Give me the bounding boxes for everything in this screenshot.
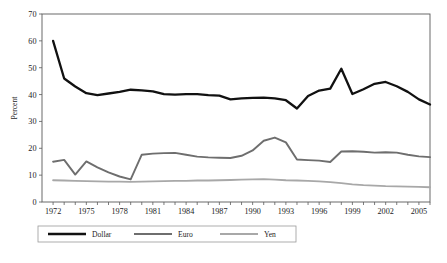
y-axis-ticks: 010203040506070: [28, 10, 42, 207]
y-tick-label: 30: [28, 117, 36, 126]
y-tick-label: 60: [28, 37, 36, 46]
y-tick-label: 50: [28, 64, 36, 73]
legend-label-yen: Yen: [264, 230, 276, 239]
x-tick-label: 1978: [111, 207, 127, 216]
y-tick-label: 0: [32, 198, 36, 207]
x-axis-ticks: 1972197519781981198419871990199319961999…: [45, 202, 430, 216]
x-tick-label: 1984: [178, 207, 194, 216]
line-chart: 010203040506070 197219751978198119841987…: [0, 0, 447, 263]
y-tick-label: 40: [28, 91, 36, 100]
legend-label-dollar: Dollar: [92, 230, 112, 239]
x-tick-label: 1993: [278, 207, 294, 216]
x-tick-label: 1999: [344, 207, 360, 216]
x-tick-label: 1972: [45, 207, 61, 216]
figure-container: 010203040506070 197219751978198119841987…: [0, 0, 447, 263]
y-axis-title-label: Percent: [10, 96, 19, 120]
x-tick-label: 1975: [78, 207, 94, 216]
y-tick-label: 20: [28, 144, 36, 153]
legend-label-euro: Euro: [178, 230, 193, 239]
y-tick-label: 70: [28, 10, 36, 19]
x-tick-label: 1990: [244, 207, 260, 216]
y-axis-title: Percent: [10, 96, 19, 120]
axes-rect: [42, 14, 430, 202]
x-tick-label: 2005: [411, 207, 427, 216]
x-tick-label: 1996: [311, 207, 327, 216]
y-tick-label: 10: [28, 171, 36, 180]
chart-legend: DollarEuroYen: [38, 226, 296, 242]
x-tick-label: 1987: [211, 207, 227, 216]
x-tick-label: 1981: [145, 207, 161, 216]
plot-frame: [42, 14, 430, 202]
x-tick-label: 2002: [377, 207, 393, 216]
